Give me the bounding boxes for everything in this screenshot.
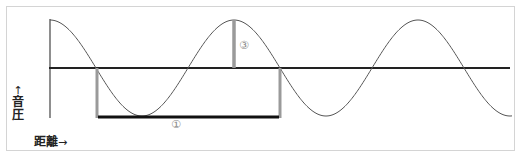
- x-axis-text: 距離: [34, 135, 58, 149]
- sound-wave-diagram: [0, 0, 522, 159]
- right-arrow-icon: →: [58, 136, 67, 149]
- y-axis-text: 音圧: [12, 95, 24, 122]
- y-axis-label: ↑ 音圧: [11, 86, 25, 122]
- amplitude-marker-label: ③: [239, 40, 249, 52]
- wavelength-marker-label: ①: [171, 119, 181, 131]
- x-axis-label: 距離→: [34, 132, 67, 149]
